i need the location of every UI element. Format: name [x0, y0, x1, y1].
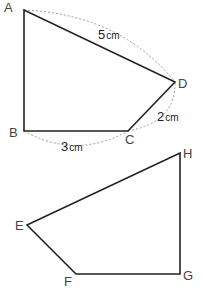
vertex-label-a: A [4, 1, 13, 14]
measurement-cd-value: 2 [157, 109, 164, 124]
vertex-label-g: G [183, 269, 193, 282]
vertex-label-d: D [178, 77, 187, 90]
measurement-cd-unit: cm [165, 112, 178, 123]
vertex-label-c: C [125, 133, 134, 146]
measurement-bc-unit: cm [69, 142, 82, 153]
measurement-ad: 5cm [98, 26, 120, 42]
measurement-ad-unit: cm [106, 30, 119, 41]
vertex-label-b: B [9, 126, 18, 139]
diagram-canvas [0, 0, 202, 306]
measurement-bc: 3cm [61, 138, 83, 154]
measurement-cd: 2cm [157, 108, 179, 124]
shape-efgh [27, 153, 180, 274]
measurement-bc-value: 3 [61, 139, 68, 154]
vertex-label-f: F [64, 275, 72, 288]
measurement-ad-value: 5 [98, 27, 105, 42]
vertex-label-e: E [15, 219, 24, 232]
quadrilateral-efgh [27, 153, 180, 274]
vertex-label-h: H [183, 147, 192, 160]
